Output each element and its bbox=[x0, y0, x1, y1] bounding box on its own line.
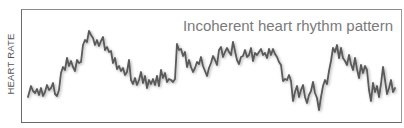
heart-rate-series-line bbox=[28, 31, 395, 110]
heart-rate-line-chart bbox=[0, 0, 404, 128]
